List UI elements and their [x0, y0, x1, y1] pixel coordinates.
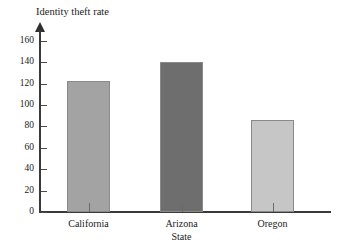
y-axis-tick-label-text: 20 [8, 186, 34, 196]
y-axis-tick [41, 191, 47, 192]
y-axis-tick [41, 169, 47, 170]
y-axis-tick-label: 160 [8, 36, 34, 46]
y-axis-tick-label: 140 [8, 57, 34, 67]
bar-chart-figure: Identity theft rate 02040608010012014016… [0, 0, 345, 251]
y-axis-line [39, 30, 41, 213]
y-axis-tick [41, 62, 47, 63]
y-axis-tick-label: 20 [8, 186, 34, 196]
x-axis-tick [273, 203, 274, 212]
x-axis-label-oregon: Oregon [223, 218, 323, 229]
y-axis-tick-label: 100 [8, 100, 34, 110]
x-axis-label-california: California [39, 218, 139, 229]
bar-california [67, 81, 110, 212]
x-axis-tick [182, 203, 183, 212]
y-axis-tick-label-text: 60 [8, 143, 34, 153]
plot-area: 020406080100120140160 CaliforniaArizonaO… [0, 0, 345, 251]
bar-oregon [251, 120, 294, 212]
x-axis-tick [89, 203, 90, 212]
x-axis-label-arizona: Arizona [132, 218, 232, 229]
y-axis-tick-label-text: 140 [8, 57, 34, 67]
y-axis-tick-label: 0 [8, 207, 34, 217]
y-axis-tick [41, 41, 47, 42]
y-axis-tick-label-text: 80 [8, 121, 34, 131]
x-axis-title: State [132, 231, 232, 242]
y-axis-tick-label: 60 [8, 143, 34, 153]
y-axis-tick [41, 212, 47, 213]
y-axis-tick-label-text: 120 [8, 79, 34, 89]
y-axis-tick-label-text: 40 [8, 164, 34, 174]
y-axis-tick-label: 40 [8, 164, 34, 174]
y-axis-tick-label-text: 160 [8, 36, 34, 46]
y-axis-tick-label: 80 [8, 121, 34, 131]
y-axis-tick [41, 84, 47, 85]
bar-arizona [160, 62, 203, 212]
y-axis-tick [41, 105, 47, 106]
y-axis-tick-label: 120 [8, 79, 34, 89]
y-axis-tick [41, 126, 47, 127]
y-axis-tick-label-text: 100 [8, 100, 34, 110]
y-axis-tick-label-text: 0 [8, 207, 34, 217]
y-axis-tick [41, 148, 47, 149]
